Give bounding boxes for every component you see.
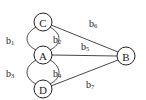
edge-label-b3: b3 (6, 68, 14, 79)
node-d: D (34, 80, 52, 98)
node-c: C (34, 13, 52, 31)
edge-b5 (52, 55, 117, 56)
graph-diagram: C A D B b1 b2 b3 b4 b5 b6 b7 (0, 0, 146, 100)
edge-b1 (27, 27, 36, 50)
node-a-label: A (39, 50, 47, 62)
edge-label-b6: b6 (89, 18, 98, 29)
edge-b3 (27, 60, 36, 84)
edge-label-b2: b2 (53, 34, 61, 45)
node-b-label: B (122, 51, 129, 63)
edge-label-b1: b1 (6, 35, 14, 46)
edge-label-b7: b7 (86, 79, 95, 90)
edge-label-b5: b5 (81, 41, 89, 52)
edge-label-b4: b4 (53, 68, 62, 79)
node-b: B (117, 47, 135, 65)
node-d-label: D (39, 84, 47, 96)
node-c-label: C (39, 17, 46, 29)
node-a: A (34, 46, 52, 64)
